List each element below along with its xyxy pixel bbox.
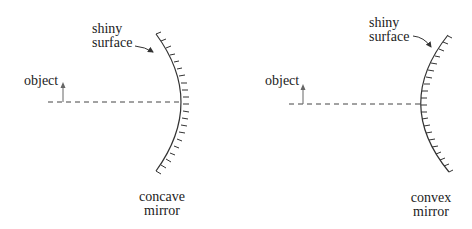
concave-object-label: object (24, 74, 58, 88)
surface-pointer-arrow (135, 46, 153, 52)
mirror-label-line1: convex (408, 191, 454, 205)
convex-mirror-arc (421, 35, 449, 172)
object-arrow-head (61, 82, 66, 88)
mirror-label-line1: concave (138, 190, 186, 204)
convex-mirror-label: convex mirror (408, 191, 454, 219)
concave-mirror-label: concave mirror (138, 190, 186, 218)
mirror-label-line2: mirror (138, 204, 186, 218)
concave-diagram (48, 32, 189, 174)
surface-label-line2: surface (369, 30, 409, 44)
convex-surface-label: shiny surface (369, 16, 409, 44)
convex-hatches (421, 36, 453, 172)
object-arrow-head (301, 84, 306, 90)
mirror-label-line2: mirror (408, 205, 454, 219)
surface-pointer-arrow (413, 36, 431, 47)
convex-diagram (289, 35, 453, 172)
concave-surface-label: shiny surface (92, 22, 132, 50)
surface-label-line2: surface (92, 36, 132, 50)
surface-label-line1: shiny (369, 16, 409, 30)
surface-label-line1: shiny (92, 22, 132, 36)
concave-hatches (156, 32, 189, 174)
convex-object-label: object (265, 74, 299, 88)
